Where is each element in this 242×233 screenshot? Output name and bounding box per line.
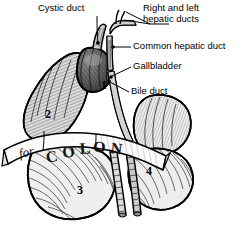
leader-gallbladder — [112, 67, 131, 76]
marker-3: 3 — [77, 183, 83, 198]
svg-text:O: O — [93, 138, 106, 155]
svg-text:L: L — [79, 139, 91, 157]
label-bile-duct: Bile duct — [131, 86, 167, 97]
svg-text:O: O — [61, 143, 75, 161]
anatomy-illustration: for C O L O N — [0, 0, 242, 233]
marker-4: 4 — [146, 164, 152, 179]
figure-canvas: for C O L O N Cystic duct Right and left — [0, 0, 242, 233]
bile-duct-structure — [108, 71, 133, 142]
cystic-duct-structure — [93, 24, 106, 49]
svg-text:N: N — [110, 139, 124, 158]
label-gallbladder: Gallbladder — [133, 61, 182, 72]
label-hepatic-ducts: Right and left hepatic ducts — [143, 3, 199, 24]
label-cystic-duct: Cystic duct — [38, 3, 84, 14]
hepatic-duct-tree — [107, 10, 136, 70]
marker-2: 2 — [45, 107, 51, 122]
marker-1: 1 — [101, 78, 107, 93]
label-common-hepatic-duct: Common hepatic duct — [133, 41, 225, 52]
